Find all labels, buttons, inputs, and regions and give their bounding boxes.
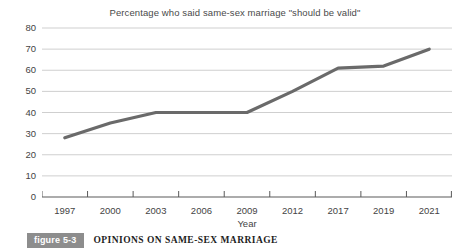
line-chart-svg [42,24,452,202]
y-axis-labels: 01020304050607080 [6,24,36,202]
y-axis-tick-label: 70 [10,44,36,54]
x-axis-labels: 199720002003200620092012201720192021 [42,205,452,219]
x-axis-tick-label: 2021 [406,205,452,217]
y-axis-tick-label: 40 [10,108,36,118]
y-axis-tick-label: 10 [10,171,36,181]
x-axis-tick-label: 2000 [87,205,133,217]
figure-container: Percentage who said same-sex marriage "s… [0,0,470,250]
figure-caption-text: OPINIONS ON SAME-SEX MARRIAGE [94,235,278,245]
x-axis-tick-label: 2012 [270,205,316,217]
x-axis-tick-label: 2006 [178,205,224,217]
y-axis-tick-label: 0 [10,192,36,202]
chart-title: Percentage who said same-sex marriage "s… [0,7,470,18]
figure-caption-row: figure 5-3 OPINIONS ON SAME-SEX MARRIAGE [0,232,470,248]
x-axis-tick-label: 2019 [361,205,407,217]
y-axis-tick-label: 30 [10,129,36,139]
data-series-line [65,49,429,138]
gridlines [42,28,452,176]
y-axis-tick-label: 60 [10,65,36,75]
x-axis-tick-label: 1997 [42,205,88,217]
x-axis-tick-label: 2009 [224,205,270,217]
plot-area [42,24,452,202]
x-axis-tick-label: 2017 [315,205,361,217]
x-axis-ticks [42,191,451,197]
y-axis-tick-label: 20 [10,150,36,160]
y-axis-tick-label: 50 [10,86,36,96]
x-axis-tick-label: 2003 [133,205,179,217]
y-axis-tick-label: 80 [10,23,36,33]
figure-number-badge: figure 5-3 [27,233,84,248]
x-axis-title: Year [42,218,452,229]
